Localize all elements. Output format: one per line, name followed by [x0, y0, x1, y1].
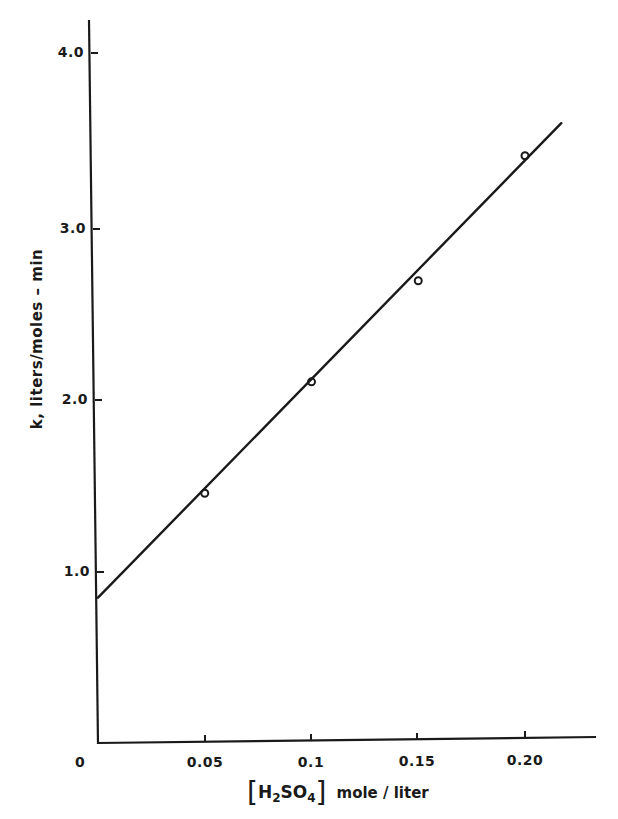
chart-canvas	[0, 0, 618, 819]
x-tick-label-2: 0.1	[281, 754, 341, 770]
x-axis-species-so: SO	[281, 782, 308, 802]
x-origin-label: 0	[50, 754, 110, 770]
y-axis-title: k, liters/moles – min	[28, 249, 46, 429]
y-axis	[89, 20, 98, 744]
x-axis-species-h: H	[258, 782, 272, 802]
y-tick-label-4: 4.0	[34, 44, 84, 60]
data-point	[201, 490, 208, 497]
fit-line	[98, 123, 561, 598]
data-point	[415, 277, 422, 284]
data-point	[522, 152, 529, 159]
x-axis-title: [H2SO4]mole / liter	[247, 776, 429, 809]
x-axis-bracket-close: ]	[316, 776, 327, 809]
x-tick-label-3: 0.15	[387, 753, 447, 769]
x-axis-bracket-open: [	[247, 776, 258, 809]
y-tick-label-1: 1.0	[40, 563, 90, 579]
x-axis	[98, 737, 596, 743]
y-tick-label-3: 3.0	[36, 220, 86, 236]
x-axis-species-sub2: 4	[307, 791, 315, 805]
x-axis-species-sub1: 2	[272, 791, 280, 805]
x-tick-label-1: 0.05	[175, 754, 235, 770]
x-tick-label-4: 0.20	[495, 752, 555, 768]
x-axis-unit: mole / liter	[337, 784, 429, 802]
